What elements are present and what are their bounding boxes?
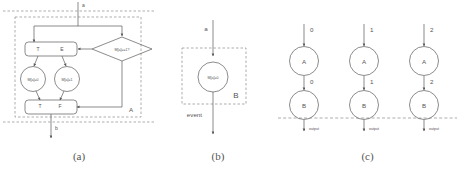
mid-label-2: 2 bbox=[430, 78, 434, 85]
node-b-label-2: B bbox=[422, 102, 426, 109]
node-a-label-1: A bbox=[362, 58, 367, 65]
region-b-label: B bbox=[233, 91, 238, 100]
action-right-label: M[a]=1 bbox=[61, 78, 72, 82]
output-event-label: event bbox=[187, 111, 202, 118]
action-left-label: M[a]=0 bbox=[27, 78, 38, 82]
node-b-label-0: B bbox=[302, 102, 306, 109]
panel-a: A a M[a]==1? T E M[a]=0 M[a]=1 bbox=[0, 0, 158, 174]
in-label-1: 1 bbox=[370, 26, 374, 33]
in-label-0: 0 bbox=[310, 26, 314, 33]
panel-c: 0 A 0 B output 1 A 1 B ou bbox=[278, 0, 457, 174]
edge-left-action-to-join bbox=[36, 91, 40, 100]
mid-label-0: 0 bbox=[310, 78, 314, 85]
edge-fork-true-to-left-action bbox=[34, 56, 38, 66]
fork-true-port-label: T bbox=[36, 46, 39, 52]
join-false-port-label: F bbox=[58, 103, 61, 109]
figure-root: A a M[a]==1? T E M[a]=0 M[a]=1 bbox=[0, 0, 457, 174]
panel-a-diagram: A a M[a]==1? T E M[a]=0 M[a]=1 bbox=[0, 0, 158, 150]
edge-right-action-to-join bbox=[60, 91, 64, 100]
join-box bbox=[25, 100, 77, 114]
decision-label: M[a]==1? bbox=[114, 48, 129, 52]
mid-label-1: 1 bbox=[370, 78, 374, 85]
chain-column-2: 2 A 2 B output bbox=[410, 24, 440, 131]
action-label-b: M[a]=0 bbox=[207, 76, 218, 80]
output-b-label: b bbox=[55, 125, 58, 131]
panel-b: a B M[a]=0 event (b) bbox=[158, 0, 278, 174]
region-a-label: A bbox=[129, 106, 134, 113]
panel-b-caption: (b) bbox=[158, 150, 278, 162]
out-label-0: output bbox=[309, 127, 319, 131]
out-label-2: output bbox=[429, 127, 439, 131]
join-true-port-label: T bbox=[38, 103, 41, 109]
panel-c-diagram: 0 A 0 B output 1 A 1 B ou bbox=[278, 0, 457, 150]
out-label-1: output bbox=[369, 127, 379, 131]
input-a-label: a bbox=[82, 2, 85, 8]
panel-c-caption: (c) bbox=[278, 150, 457, 162]
fork-box bbox=[25, 42, 77, 56]
input-a-label-b: a bbox=[204, 25, 208, 32]
edge-fork-else-to-right-action bbox=[62, 56, 66, 66]
in-label-2: 2 bbox=[430, 26, 434, 33]
chain-column-1: 1 A 1 B output bbox=[350, 24, 380, 131]
node-a-label-0: A bbox=[302, 58, 307, 65]
node-b-label-1: B bbox=[362, 102, 366, 109]
chain-column-0: 0 A 0 B output bbox=[290, 24, 320, 131]
panel-b-diagram: a B M[a]=0 event bbox=[158, 0, 278, 150]
fork-else-port-label: E bbox=[60, 46, 64, 52]
node-a-label-2: A bbox=[422, 58, 427, 65]
panel-a-caption: (a) bbox=[0, 150, 158, 162]
